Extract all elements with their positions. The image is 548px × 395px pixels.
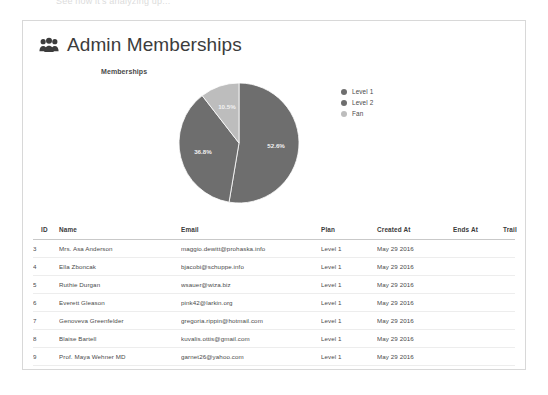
page-header: Admin Memberships <box>23 21 525 54</box>
table-row[interactable]: 8Blaise Bartellkuvalis.ottis@gmail.comLe… <box>33 330 515 348</box>
cell-id: 4 <box>33 258 59 276</box>
legend-item-level-2[interactable]: Level 2 <box>341 99 373 106</box>
cell-ends-at <box>453 366 503 371</box>
cell-plan: Level 1 <box>321 348 377 366</box>
cell-id: 10 <box>33 366 59 371</box>
cell-name: Genoveva Greenfelder <box>59 312 181 330</box>
cell-created-at: May 29 2016 <box>377 330 453 348</box>
cell-plan: Level 1 <box>321 258 377 276</box>
cell-email: bjacobi@schuppe.info <box>181 258 321 276</box>
cell-created-at: May 29 2016 <box>377 276 453 294</box>
cell-plan: Level 1 <box>321 240 377 258</box>
column-header-name[interactable]: Name <box>59 219 181 240</box>
cell-trail <box>503 294 515 312</box>
memberships-chart: Memberships 52.6%36.8%10.5% Level 1 Leve… <box>23 66 525 218</box>
table-row[interactable]: 9Prof. Maya Wehner MDgarnet26@yahoo.comL… <box>33 348 515 366</box>
cell-email: garnet26@yahoo.com <box>181 348 321 366</box>
cell-name: Prof. Maya Wehner MD <box>59 348 181 366</box>
cell-ends-at <box>453 348 503 366</box>
table-row[interactable]: 4Ella Zboncakbjacobi@schuppe.infoLevel 1… <box>33 258 515 276</box>
legend-swatch <box>341 89 347 95</box>
pie-slice-label: 10.5% <box>218 103 236 110</box>
cell-name: Ella Zboncak <box>59 258 181 276</box>
cell-id: 7 <box>33 312 59 330</box>
legend-label: Level 2 <box>352 99 373 106</box>
legend-swatch <box>341 100 347 106</box>
table-row[interactable]: 5Ruthie Durganwsauer@wiza.bizLevel 1May … <box>33 276 515 294</box>
cell-plan: Level 1 <box>321 366 377 371</box>
cell-created-at: May 29 2016 <box>377 258 453 276</box>
table-body: 3Mrs. Asa Andersonmaggio.dewitt@prohaska… <box>33 240 515 371</box>
cell-email: wsauer@wiza.biz <box>181 276 321 294</box>
cell-trail <box>503 276 515 294</box>
cell-name: Everett Gleason <box>59 294 181 312</box>
column-header-plan[interactable]: Plan <box>321 219 377 240</box>
cell-created-at: May 29 2016 <box>377 348 453 366</box>
cell-id: 3 <box>33 240 59 258</box>
pie-chart: 52.6%36.8%10.5% <box>178 82 300 204</box>
table-row[interactable]: 3Mrs. Asa Andersonmaggio.dewitt@prohaska… <box>33 240 515 258</box>
chart-legend: Level 1 Level 2 Fan <box>341 88 373 117</box>
cell-plan: Level 1 <box>321 294 377 312</box>
page-title: Admin Memberships <box>67 35 242 54</box>
cell-trail <box>503 240 515 258</box>
cell-id: 6 <box>33 294 59 312</box>
column-header-created-at[interactable]: Created At <box>377 219 453 240</box>
cell-email: pink42@larkin.org <box>181 294 321 312</box>
cell-ends-at <box>453 330 503 348</box>
legend-label: Level 1 <box>352 88 373 95</box>
cell-ends-at <box>453 312 503 330</box>
cell-created-at: May 29 2016 <box>377 294 453 312</box>
cell-email: gregoria.rippin@hotmail.com <box>181 312 321 330</box>
legend-label: Fan <box>352 110 363 117</box>
table-row[interactable]: 7Genoveva Greenfeldergregoria.rippin@hot… <box>33 312 515 330</box>
cell-name: Ruthie Durgan <box>59 276 181 294</box>
legend-item-fan[interactable]: Fan <box>341 110 373 117</box>
table-header-row: IDNameEmailPlanCreated AtEnds AtTrail <box>33 219 515 240</box>
legend-swatch <box>341 111 347 117</box>
legend-item-level-1[interactable]: Level 1 <box>341 88 373 95</box>
pie-chart-svg: 52.6%36.8%10.5% <box>178 82 300 204</box>
top-cutoff-text: See how it's analyzing up... <box>56 0 170 6</box>
table-row[interactable]: 10Barbara Rogahnraina43@barrows.comLevel… <box>33 366 515 371</box>
cell-plan: Level 1 <box>321 276 377 294</box>
admin-memberships-card: Admin Memberships Memberships 52.6%36.8%… <box>22 20 526 370</box>
cell-email: maggio.dewitt@prohaska.info <box>181 240 321 258</box>
users-icon <box>39 37 59 53</box>
cell-id: 9 <box>33 348 59 366</box>
cell-name: Mrs. Asa Anderson <box>59 240 181 258</box>
cell-plan: Level 1 <box>321 330 377 348</box>
column-header-email[interactable]: Email <box>181 219 321 240</box>
table-row[interactable]: 6Everett Gleasonpink42@larkin.orgLevel 1… <box>33 294 515 312</box>
cell-trail <box>503 258 515 276</box>
column-header-trail[interactable]: Trail <box>503 219 515 240</box>
cell-email: raina43@barrows.com <box>181 366 321 371</box>
memberships-table-container: IDNameEmailPlanCreated AtEnds AtTrail 3M… <box>23 219 525 370</box>
column-header-ends-at[interactable]: Ends At <box>453 219 503 240</box>
cell-created-at: May 29 2016 <box>377 366 453 371</box>
cell-trail <box>503 348 515 366</box>
cell-name: Blaise Bartell <box>59 330 181 348</box>
cell-name: Barbara Rogahn <box>59 366 181 371</box>
cell-trail <box>503 312 515 330</box>
cell-plan: Level 1 <box>321 312 377 330</box>
cell-id: 5 <box>33 276 59 294</box>
cell-email: kuvalis.ottis@gmail.com <box>181 330 321 348</box>
chart-title: Memberships <box>101 68 147 75</box>
cell-trail <box>503 366 515 371</box>
pie-slice[interactable] <box>229 83 299 203</box>
cell-created-at: May 29 2016 <box>377 240 453 258</box>
table-header: IDNameEmailPlanCreated AtEnds AtTrail <box>33 219 515 240</box>
column-header-id[interactable]: ID <box>33 219 59 240</box>
cell-ends-at <box>453 276 503 294</box>
cell-trail <box>503 330 515 348</box>
cell-id: 8 <box>33 330 59 348</box>
cell-ends-at <box>453 294 503 312</box>
cell-ends-at <box>453 258 503 276</box>
pie-slice-label: 52.6% <box>267 142 285 149</box>
pie-slice-label: 36.8% <box>194 148 212 155</box>
cell-created-at: May 29 2016 <box>377 312 453 330</box>
memberships-table: IDNameEmailPlanCreated AtEnds AtTrail 3M… <box>33 219 515 370</box>
cell-ends-at <box>453 240 503 258</box>
